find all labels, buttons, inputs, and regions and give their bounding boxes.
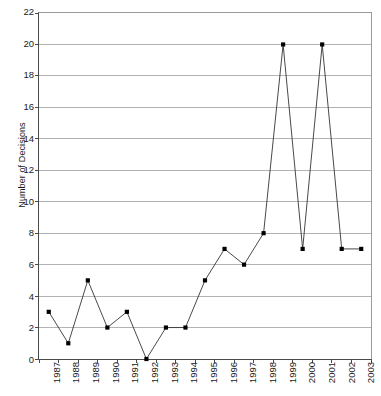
plot-area [38, 12, 372, 360]
series-line [49, 44, 361, 359]
x-axis-tick-labels: 1987198819891990199119921993199419951996… [38, 362, 372, 396]
x-tick-label: 2000 [307, 362, 317, 383]
y-tick-label: 2 [12, 323, 34, 333]
data-point-marker [301, 247, 305, 251]
x-tick-label: 1988 [71, 362, 81, 383]
data-point-marker [340, 247, 344, 251]
x-tick-label: 1994 [189, 362, 199, 383]
x-tick-label: 1998 [268, 362, 278, 383]
data-point-marker [86, 278, 90, 282]
y-tick-label: 18 [12, 70, 34, 80]
data-point-marker [262, 231, 266, 235]
x-tick-label: 1990 [111, 362, 121, 383]
y-tick-label: 10 [12, 197, 34, 207]
data-point-marker [144, 357, 148, 361]
data-point-marker [281, 42, 285, 46]
x-tick-label: 2002 [347, 362, 357, 383]
x-tick-label: 1991 [130, 362, 140, 383]
data-point-marker [222, 247, 226, 251]
data-point-marker [203, 278, 207, 282]
y-tick-label: 14 [12, 134, 34, 144]
data-series [39, 13, 371, 359]
y-tick-label: 6 [12, 260, 34, 270]
x-tick-label: 1987 [52, 362, 62, 383]
data-point-marker [47, 310, 51, 314]
x-tick-label: 2003 [366, 362, 376, 383]
x-tick-label: 1999 [288, 362, 298, 383]
data-point-marker [183, 325, 187, 329]
x-tick-label: 1995 [209, 362, 219, 383]
y-axis-tick-labels: 0246810121416182022 [12, 0, 34, 396]
data-point-marker [359, 247, 363, 251]
data-point-marker [242, 263, 246, 267]
y-tick-label: 4 [12, 292, 34, 302]
data-point-marker [125, 310, 129, 314]
y-tick-label: 22 [12, 7, 34, 17]
y-tick-label: 8 [12, 228, 34, 238]
line-chart: Number of Decisions 0246810121416182022 … [0, 0, 381, 396]
data-point-marker [320, 42, 324, 46]
data-point-marker [105, 325, 109, 329]
x-tick-label: 1996 [229, 362, 239, 383]
x-tick-label: 2001 [327, 362, 337, 383]
x-tick-label: 1993 [170, 362, 180, 383]
x-tick-label: 1989 [91, 362, 101, 383]
x-tick-label: 1997 [248, 362, 258, 383]
y-tick-label: 20 [12, 39, 34, 49]
data-point-marker [164, 325, 168, 329]
y-tick-label: 12 [12, 165, 34, 175]
y-tick-label: 0 [12, 355, 34, 365]
y-tick-label: 16 [12, 102, 34, 112]
x-tick-label: 1992 [150, 362, 160, 383]
data-point-marker [66, 341, 70, 345]
